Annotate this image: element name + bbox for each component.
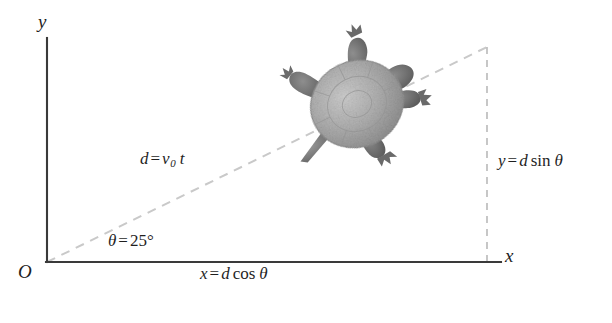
x-component-distance-symbol: d (221, 264, 230, 283)
vector-diagram: y x O d=v0t θ=25° x=dcosθ y=dsinθ (0, 0, 612, 323)
y-component-distance-symbol: d (519, 151, 528, 170)
origin-label: O (18, 262, 32, 281)
distance-speed-subscript: 0 (170, 157, 176, 169)
y-component-equation-label: y=dsinθ (498, 152, 563, 169)
distance-equation-label: d=v0t (140, 150, 184, 169)
turtle-foot-front-left (344, 21, 364, 39)
angle-unit: ° (147, 231, 154, 250)
angle-value: 25 (130, 231, 147, 250)
y-component-operator: = (506, 151, 520, 170)
distance-time-symbol: t (176, 149, 185, 168)
x-component-equation-label: x=dcosθ (200, 265, 268, 282)
x-axis-label: x (505, 246, 513, 265)
distance-speed-symbol: v (162, 149, 170, 168)
y-component-function: sin (528, 151, 551, 170)
x-component-angle-symbol: θ (255, 264, 267, 283)
x-component-function: cos (230, 264, 256, 283)
y-axis-label: y (38, 12, 46, 31)
x-component-operator: = (208, 264, 222, 283)
angle-label: θ=25° (108, 232, 154, 249)
distance-operator: = (149, 149, 163, 168)
y-component-angle-symbol: θ (550, 151, 562, 170)
x-component-lhs: x (200, 264, 208, 283)
angle-operator: = (116, 231, 130, 250)
turtle-illustration (256, 6, 451, 199)
distance-lhs: d (140, 149, 149, 168)
y-component-lhs: y (498, 151, 506, 170)
displacement-vector-dashed-line (47, 47, 487, 262)
